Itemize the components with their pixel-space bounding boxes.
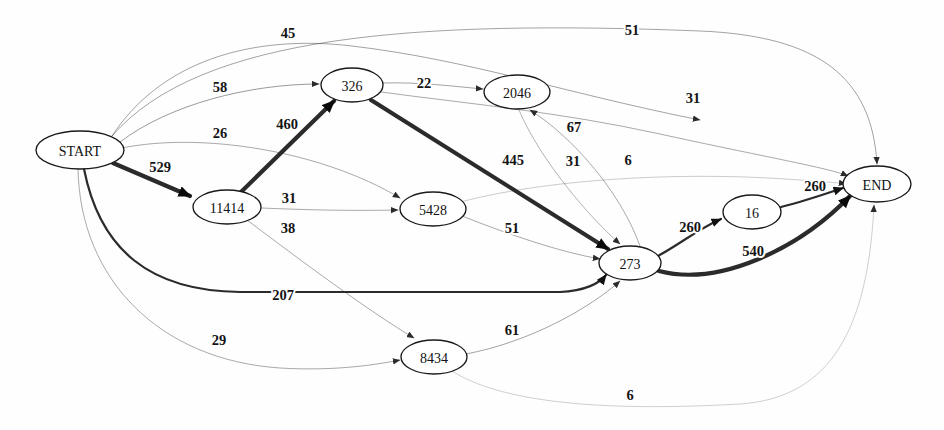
edge-weight-label: 6 — [624, 152, 631, 168]
graph-edge — [261, 208, 398, 210]
node-label: END — [863, 178, 892, 193]
graph-node-END[interactable]: END — [843, 166, 911, 202]
edge-weight-label: 540 — [742, 243, 764, 259]
edge-weight-label: 61 — [505, 322, 520, 338]
graph-node-11414[interactable]: 11414 — [193, 190, 261, 224]
node-label: 16 — [745, 206, 759, 221]
node-label: 273 — [620, 257, 641, 272]
graph-node-START[interactable]: START — [36, 131, 124, 169]
graph-node-326[interactable]: 326 — [321, 68, 383, 102]
edge-weight-label: 67 — [567, 119, 582, 135]
node-label: 8434 — [420, 351, 448, 366]
node-label: 11414 — [210, 201, 244, 216]
graph-edge — [462, 216, 600, 259]
edge-weight-label: 26 — [213, 125, 228, 141]
edge-weight-label: 260 — [804, 178, 826, 194]
node-label: 326 — [342, 79, 363, 94]
graph-edge — [241, 101, 334, 192]
graph-canvas: START1141432620465428273843416END 454551… — [0, 0, 944, 430]
edge-weight-label: 31 — [686, 90, 701, 106]
edge-weight-label: 445 — [502, 152, 524, 168]
graph-node-16[interactable]: 16 — [723, 195, 781, 229]
graph-edge — [381, 92, 848, 176]
edge-weight-label: 51 — [505, 220, 520, 236]
edge-weight-label: 29 — [212, 332, 227, 348]
edge-weight-label: 260 — [679, 219, 701, 235]
graph-edge — [247, 220, 414, 338]
edge-weight-label: 58 — [213, 79, 228, 95]
node-label: 5428 — [419, 203, 447, 218]
node-label: 2046 — [503, 86, 531, 101]
graph-node-8434[interactable]: 8434 — [401, 340, 467, 374]
graph-edge — [460, 176, 846, 202]
graph-node-273[interactable]: 273 — [599, 246, 661, 280]
edge-weight-label: 22 — [417, 75, 432, 91]
graph-node-2046[interactable]: 2046 — [484, 75, 550, 109]
graph-diagram: START1141432620465428273843416END 454551… — [0, 0, 944, 430]
edge-weight-label: 31 — [282, 190, 297, 206]
edge-weight-label: 6 — [626, 387, 633, 403]
graph-edge — [530, 110, 640, 246]
edge-weight-label: 460 — [276, 116, 298, 132]
node-label: START — [59, 144, 102, 159]
graph-edge — [383, 83, 483, 89]
edge-weight-label: 51 — [625, 22, 640, 38]
edge-weight-label: 45 — [281, 25, 296, 41]
graph-edge — [84, 169, 606, 292]
edge-weight-label: 529 — [149, 159, 171, 175]
edge-weight-label: 38 — [281, 220, 296, 236]
nodes-layer: START1141432620465428273843416END — [36, 68, 911, 374]
graph-node-5428[interactable]: 5428 — [400, 192, 466, 226]
edge-weight-label: 31 — [566, 153, 581, 169]
edge-weight-label: 207 — [272, 287, 294, 303]
